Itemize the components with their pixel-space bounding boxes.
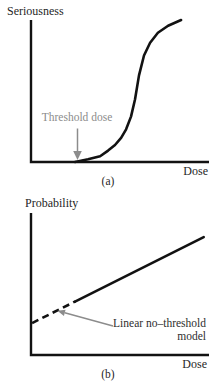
lnt-annotation-arrow-icon bbox=[58, 310, 114, 326]
panel-a-caption: (a) bbox=[0, 175, 216, 187]
lnt-model-annotation-line2: model bbox=[113, 330, 206, 343]
threshold-arrow-icon bbox=[73, 129, 82, 161]
panel-b-y-axis-label: Probability bbox=[25, 196, 78, 211]
lnt-line-solid bbox=[76, 237, 204, 301]
dose-response-figure: Seriousness Threshold dose Dose (a) Prob… bbox=[0, 0, 220, 391]
dose-response-curve bbox=[75, 20, 181, 162]
panel-b-caption: (b) bbox=[0, 368, 216, 380]
threshold-dose-annotation: Threshold dose bbox=[40, 111, 114, 123]
panel-a-y-axis-label: Seriousness bbox=[7, 4, 64, 19]
lnt-model-annotation-line1: Linear no–threshold bbox=[113, 317, 206, 330]
lnt-model-annotation: Linear no–threshold model bbox=[113, 317, 206, 343]
lnt-line-dashed bbox=[32, 301, 75, 323]
